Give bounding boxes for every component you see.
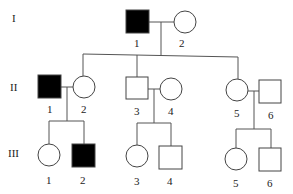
label-III-1: 1 (46, 174, 52, 186)
generation-label-II: II (10, 81, 18, 93)
individual-III-4-male (159, 146, 182, 169)
individual-III-1-female (38, 144, 60, 166)
label-III-4: 4 (167, 175, 173, 187)
individual-II-6-male (259, 80, 281, 103)
pedigree-chart: I II III 1 2 1 2 3 4 (0, 0, 293, 194)
individual-II-4-female (160, 78, 182, 100)
label-I-2: 2 (179, 37, 185, 49)
label-II-6: 6 (268, 109, 274, 121)
label-III-5: 5 (233, 177, 239, 189)
individual-III-3-female (126, 145, 148, 167)
label-II-5: 5 (234, 107, 240, 119)
individual-III-2-affected-male (72, 144, 95, 167)
individual-III-6-male (259, 148, 281, 171)
label-II-1: 1 (47, 103, 53, 115)
individual-II-5-female (226, 79, 248, 101)
individual-I-2-female (174, 11, 196, 33)
label-III-6: 6 (267, 177, 273, 189)
lines-gen-I (83, 22, 238, 79)
generation-label-I: I (12, 12, 16, 24)
label-II-2: 2 (81, 103, 87, 115)
individual-II-1-affected-male (38, 75, 61, 98)
label-I-1: 1 (134, 37, 140, 49)
individual-II-2-female (73, 76, 95, 98)
individual-III-5-female (225, 148, 247, 170)
label-III-3: 3 (134, 175, 140, 187)
label-II-3: 3 (134, 105, 140, 117)
label-II-4: 4 (168, 105, 174, 117)
label-III-2: 2 (80, 174, 86, 186)
generation-label-III: III (8, 147, 19, 159)
individual-I-1-affected-male (126, 10, 149, 33)
individual-II-3-male (126, 77, 148, 99)
